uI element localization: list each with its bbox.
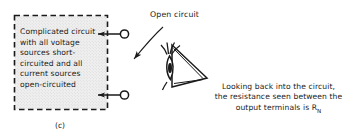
eye-caption-line-2: the resistance seen between the	[206, 92, 351, 102]
circuit-box-text: Complicated circuit with all voltage sou…	[20, 27, 106, 91]
eye-caption: Looking back into the circuit, the resis…	[206, 82, 351, 116]
eye-icon	[161, 43, 207, 91]
eye-caption-line-1: Looking back into the circuit,	[206, 82, 351, 92]
upper-terminal-node	[120, 30, 128, 38]
part-label: (c)	[0, 121, 120, 130]
open-circuit-pointer-arrow	[134, 27, 163, 59]
eye-caption-line-3: output terminals is RN	[206, 103, 351, 116]
norton-resistance-subscript: N	[317, 107, 321, 113]
norton-resistance-figure: Complicated circuit with all voltage sou…	[0, 0, 351, 140]
open-circuit-label: Open circuit	[150, 10, 199, 19]
lower-terminal-node	[120, 91, 128, 99]
eye-caption-line-3-text: output terminals is R	[236, 103, 317, 112]
